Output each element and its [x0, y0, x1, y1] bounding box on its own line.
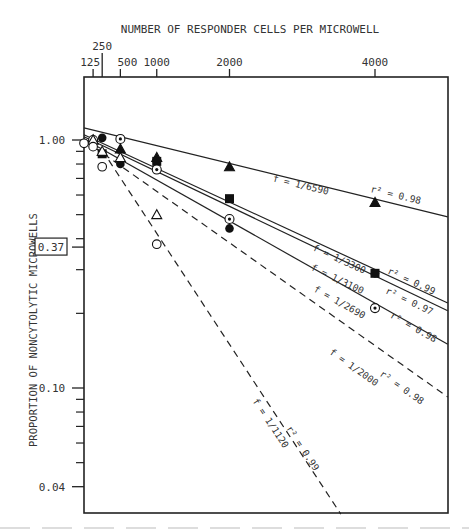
data-point-circle-open	[152, 240, 161, 249]
data-point-circle-filled	[98, 134, 107, 143]
y-tick-label: 1.00	[39, 134, 66, 147]
data-point-square-filled	[225, 194, 234, 203]
data-point-circle-open	[80, 139, 89, 148]
x-tick-label: 125	[80, 56, 100, 69]
data-point-circle-open	[89, 142, 98, 151]
dot-center	[373, 306, 376, 309]
data-point-triangle-filled	[370, 197, 380, 206]
fit-r2-label: r² = 0.99	[284, 424, 322, 473]
fit-f-label: f = 1/6590	[272, 172, 330, 196]
limiting-dilution-chart: NUMBER OF RESPONDER CELLS PER MICROWELL …	[0, 0, 469, 532]
y-tick-label: 0.04	[39, 481, 66, 494]
data-point-circle-filled	[225, 224, 234, 233]
data-point-triangle-open	[152, 210, 162, 219]
fit-line	[84, 137, 448, 311]
data-point-circle-filled	[371, 269, 380, 278]
data-point-circle-open	[98, 162, 107, 171]
dot-center	[228, 217, 231, 220]
x-tick-label: 500	[117, 56, 137, 69]
x-tick-label: 4000	[362, 56, 389, 69]
fit-f-label: f = 1/2000	[327, 346, 380, 388]
x-tick-label: 250	[92, 40, 112, 53]
x-tick-label: 1000	[144, 56, 171, 69]
x-axis-ticks: 125250500100020004000	[80, 40, 388, 77]
x-tick-label: 2000	[216, 56, 243, 69]
fit-labels: f = 1/6590r² = 0.98f = 1/3300r² = 0.99f …	[251, 172, 439, 472]
data-point-circle-filled	[152, 157, 161, 166]
y-tick-label: 0.37	[38, 241, 65, 254]
dot-center	[119, 137, 122, 140]
fit-r2-label: r² = 0.98	[389, 310, 439, 345]
fit-f-label: f = 1/1120	[251, 396, 292, 450]
y-axis-ticks: 1.000.370.100.04	[35, 134, 84, 494]
dot-center	[155, 168, 158, 171]
data-points	[80, 134, 380, 313]
y-tick-label: 0.10	[39, 382, 66, 395]
x-axis-title: NUMBER OF RESPONDER CELLS PER MICROWELL	[121, 23, 380, 36]
fit-r2-label: r² = 0.98	[378, 368, 427, 407]
fit-line	[84, 128, 448, 217]
